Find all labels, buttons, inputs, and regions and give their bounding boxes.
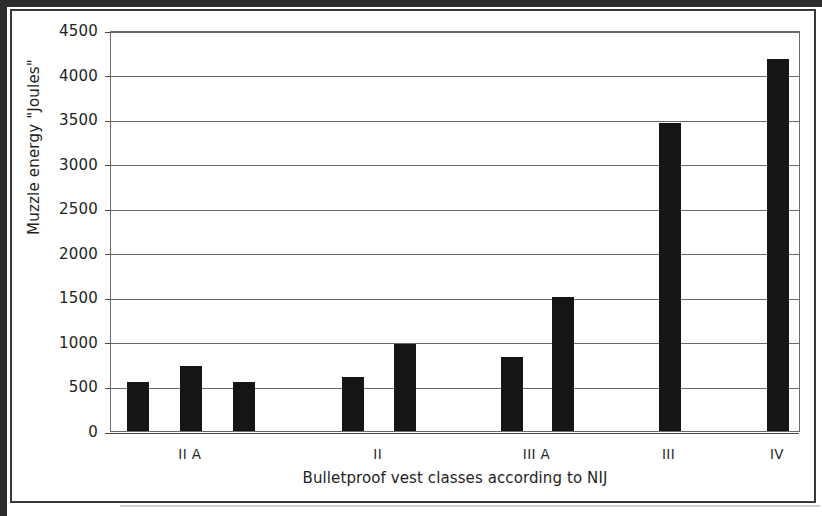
- y-axis-tick-label: 1000: [28, 335, 98, 350]
- figure-page: Muzzle energy "Joules" 05001000150020002…: [0, 0, 822, 516]
- bar: [767, 59, 789, 431]
- bar: [233, 382, 255, 431]
- y-axis-tick: [105, 121, 111, 122]
- gridline: [111, 165, 799, 166]
- y-axis-tick: [105, 299, 111, 300]
- gridline: [111, 32, 799, 33]
- bar: [552, 297, 574, 431]
- plot-area: [110, 31, 800, 432]
- bar: [659, 123, 681, 431]
- y-axis-tick: [105, 165, 111, 166]
- x-axis-tick-label: III A: [523, 446, 550, 462]
- y-axis-tick-label: 0: [28, 425, 98, 440]
- gridline: [111, 121, 799, 122]
- y-axis-tick-label: 3000: [28, 157, 98, 172]
- y-axis-tick-label: 2000: [28, 246, 98, 261]
- y-axis-tick: [105, 433, 111, 434]
- gridline: [111, 254, 799, 255]
- bar: [342, 377, 364, 431]
- gridline: [111, 76, 799, 77]
- gridline: [111, 210, 799, 211]
- y-axis-tick-label: 2500: [28, 202, 98, 217]
- y-axis-tick-label: 4500: [28, 24, 98, 39]
- bar-chart: Muzzle energy "Joules" 05001000150020002…: [0, 0, 822, 516]
- x-axis-tick-label: II A: [178, 446, 201, 462]
- y-axis-tick: [105, 343, 111, 344]
- gridline: [111, 433, 799, 434]
- y-axis-tick: [105, 254, 111, 255]
- x-axis-title: Bulletproof vest classes according to NI…: [110, 469, 800, 487]
- x-axis-tick-label: III: [662, 446, 675, 462]
- gridline: [111, 343, 799, 344]
- y-axis-tick: [105, 32, 111, 33]
- y-axis-tick: [105, 76, 111, 77]
- bar: [180, 366, 202, 431]
- bar: [394, 344, 416, 431]
- y-axis-tick-label: 4000: [28, 68, 98, 83]
- gridline: [111, 388, 799, 389]
- y-axis-title: Muzzle energy "Joules": [25, 17, 43, 277]
- y-axis-tick-label: 500: [28, 380, 98, 395]
- x-axis-tick-label: IV: [770, 446, 784, 462]
- y-axis-tick: [105, 210, 111, 211]
- gridline: [111, 299, 799, 300]
- x-axis-tick-label: II: [373, 446, 382, 462]
- y-axis-tick-label: 3500: [28, 113, 98, 128]
- y-axis-tick-label: 1500: [28, 291, 98, 306]
- bar: [501, 357, 523, 431]
- bar: [127, 382, 149, 431]
- y-axis-tick: [105, 388, 111, 389]
